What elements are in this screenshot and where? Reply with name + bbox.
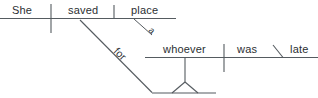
clause-pedestal-left-leg — [172, 82, 185, 93]
word-predicate-adjective-late: late — [290, 43, 309, 55]
word-subordinate-verb-was: was — [236, 43, 257, 55]
word-verb-saved: saved — [68, 4, 98, 16]
word-preposition-for: for — [112, 45, 130, 63]
word-subject-she: She — [12, 4, 32, 16]
word-article-a: a — [147, 25, 158, 36]
diagram-svg: She saved place a for whoever was late — [0, 0, 318, 98]
clause-pedestal-right-leg — [185, 82, 198, 93]
word-subordinate-subject-whoever: whoever — [162, 43, 206, 55]
sentence-diagram-canvas: She saved place a for whoever was late — [0, 0, 318, 98]
word-object-place: place — [131, 4, 158, 16]
predicate-adjective-slant — [273, 45, 283, 58]
